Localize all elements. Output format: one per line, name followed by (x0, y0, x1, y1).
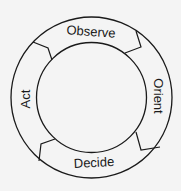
divider-decide-act-arrow-icon (39, 139, 55, 161)
divider-act-observe-arrow-icon (33, 42, 52, 60)
outer-ring (11, 17, 172, 178)
inner-circle (37, 43, 147, 153)
stage-label-orient: Orient (151, 78, 166, 114)
ooda-loop-diagram: Observe Orient Decide Act (0, 0, 181, 191)
divider-orient-decide-arrow-icon (136, 132, 160, 150)
stage-label-act: Act (18, 89, 33, 108)
stage-label-observe: Observe (66, 22, 116, 40)
stage-label-decide: Decide (73, 154, 114, 171)
divider-observe-orient-arrow-icon (125, 31, 141, 53)
